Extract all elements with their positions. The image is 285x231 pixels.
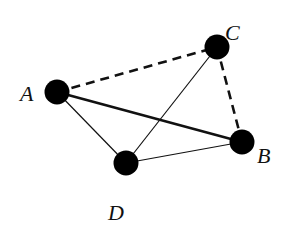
node-label-c: C <box>225 20 240 45</box>
edges <box>57 47 242 163</box>
node-b <box>230 130 255 155</box>
graph-diagram: ABCD <box>0 0 285 231</box>
node-label-d: D <box>107 200 124 225</box>
node-label-b: B <box>257 143 270 168</box>
node-d <box>114 151 139 176</box>
edge-d-b <box>126 142 242 163</box>
edge-a-b <box>57 92 242 142</box>
edge-a-c <box>57 47 217 92</box>
edge-c-b <box>217 47 242 142</box>
node-label-a: A <box>18 81 34 106</box>
node-a <box>45 80 70 105</box>
labels: ABCD <box>18 20 270 225</box>
edge-d-c <box>126 47 217 163</box>
nodes <box>45 35 255 176</box>
